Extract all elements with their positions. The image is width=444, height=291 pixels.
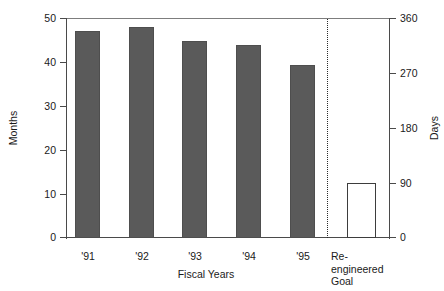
- left-axis-line: [66, 18, 67, 239]
- bar-94[interactable]: [236, 45, 261, 238]
- left-tick-label-0: 0: [30, 232, 56, 243]
- right-tick-label-0: 0: [400, 232, 406, 243]
- category-label-re-engineered-line1: Re-engineered: [331, 250, 384, 275]
- right-tick-0: [390, 237, 396, 238]
- left-tick-0: [60, 237, 66, 238]
- left-tick-label-10: 10: [30, 189, 56, 200]
- bar-95[interactable]: [290, 65, 315, 238]
- bar-93[interactable]: [182, 41, 207, 238]
- right-tick-180: [390, 128, 396, 129]
- category-label-91: '91: [62, 250, 114, 262]
- category-label-re-engineered-goal: Re-engineered Goal: [331, 250, 393, 288]
- left-tick-label-40: 40: [30, 57, 56, 68]
- y-axis-title-left: Months: [7, 93, 19, 163]
- right-tick-360: [390, 18, 396, 19]
- category-label-93: '93: [169, 250, 221, 262]
- left-tick-label-20: 20: [30, 145, 56, 156]
- category-label-94: '94: [223, 250, 275, 262]
- left-tick-10: [60, 194, 66, 195]
- goal-divider-line: [327, 19, 329, 238]
- left-tick-50: [60, 18, 66, 19]
- left-tick-40: [60, 62, 66, 63]
- bar-92[interactable]: [129, 27, 154, 238]
- right-tick-90: [390, 183, 396, 184]
- bar-re-engineered-goal[interactable]: [347, 183, 376, 238]
- category-label-re-engineered-line2: Goal: [331, 275, 353, 287]
- right-tick-label-270: 270: [400, 68, 418, 79]
- right-tick-270: [390, 73, 396, 74]
- right-tick-label-360: 360: [400, 13, 418, 24]
- bar-91[interactable]: [75, 31, 100, 238]
- y-axis-title-right: Days: [428, 93, 440, 163]
- bottom-axis-line: [66, 237, 390, 238]
- left-tick-30: [60, 106, 66, 107]
- category-label-92: '92: [116, 250, 168, 262]
- right-tick-label-90: 90: [400, 178, 412, 189]
- left-tick-label-50: 50: [30, 13, 56, 24]
- bar-chart: 50 40 30 20 10 0 360 270 180 90 0 '91 '9…: [0, 0, 444, 291]
- x-axis-title: Fiscal Years: [126, 268, 286, 280]
- category-label-95: '95: [277, 250, 329, 262]
- plot-top-rule: [66, 18, 390, 19]
- left-tick-label-30: 30: [30, 101, 56, 112]
- right-tick-label-180: 180: [400, 123, 418, 134]
- left-tick-20: [60, 150, 66, 151]
